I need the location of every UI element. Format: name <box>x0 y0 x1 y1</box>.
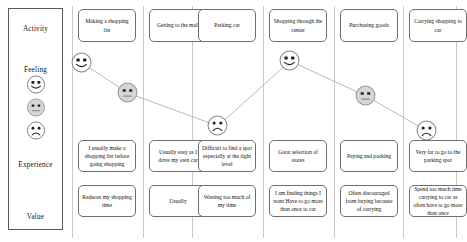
activity-box[interactable]: Shopping through the center <box>269 9 327 42</box>
value-box[interactable]: I am finding things I want Have to go mo… <box>269 185 327 217</box>
activity-box[interactable]: Purchasing goods <box>340 9 398 42</box>
experience-box[interactable]: Very far to go to the parking spot <box>409 140 467 172</box>
row-label-panel: Activity Feeling Experience Value <box>8 8 63 230</box>
activity-box[interactable]: Parking car <box>198 9 256 42</box>
legend-sad-face-icon <box>26 121 45 144</box>
experience-box[interactable]: Paying and packing <box>340 140 398 172</box>
feeling-point-happy-face-icon <box>71 52 92 77</box>
feeling-point-neutral-face-icon <box>355 85 376 110</box>
feeling-point-neutral-face-icon <box>117 82 138 107</box>
feeling-point-happy-face-icon <box>279 50 300 75</box>
legend-happy-face-icon <box>26 75 45 98</box>
experience-box[interactable]: Difficult to find a spot especially at t… <box>198 140 256 172</box>
experience-box[interactable]: Great selection of stores <box>269 140 327 172</box>
row-label-activity: Activity <box>9 25 62 33</box>
feeling-point-sad-face-icon <box>207 115 228 140</box>
value-box[interactable]: Wasting too much of my time <box>198 185 256 217</box>
value-box[interactable]: Often discouraged from buying because of… <box>340 185 398 217</box>
row-label-experience: Experience <box>9 161 62 169</box>
row-label-feeling: Feeling <box>9 66 62 74</box>
row-label-value: Value <box>9 213 62 221</box>
value-box[interactable]: Reduces my shopping time <box>78 185 136 217</box>
legend-neutral-face-icon <box>26 98 45 121</box>
activity-box[interactable]: Carrying shopping to car <box>409 9 467 42</box>
activity-box[interactable]: Making a shopping list <box>78 9 136 42</box>
value-box[interactable]: Spend too much time carrying to car as o… <box>409 185 467 217</box>
experience-box[interactable]: I usually make a shopping list before go… <box>78 140 136 172</box>
